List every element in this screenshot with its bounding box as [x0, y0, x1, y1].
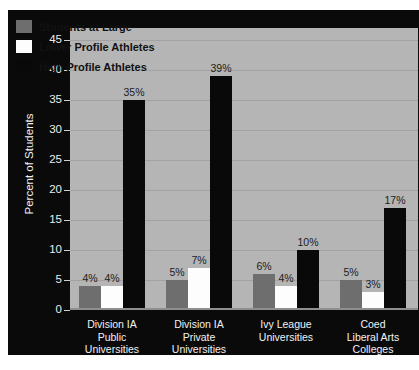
bar	[79, 286, 101, 310]
bar-value-label: 6%	[246, 261, 282, 272]
bar	[123, 100, 145, 310]
y-axis-tick-label: 30	[34, 124, 62, 135]
y-axis-tick-label: 0	[34, 304, 62, 315]
x-axis-category-line: Colleges	[318, 343, 419, 356]
legend-label: Lower Profile Athletes	[39, 41, 155, 53]
bar-value-label: 5%	[333, 267, 369, 278]
y-axis-tick-label: 25	[34, 154, 62, 165]
bar	[275, 286, 297, 310]
y-axis-tick-label: 15	[34, 214, 62, 225]
legend-label: Students at Large	[39, 21, 132, 33]
legend-swatch	[16, 60, 32, 73]
bar-value-label: 17%	[377, 195, 413, 206]
legend-swatch	[16, 20, 32, 33]
legend-item: Students at Large	[16, 18, 155, 35]
bar	[166, 280, 188, 310]
axis-baseline	[70, 308, 418, 310]
y-axis-tick	[64, 310, 70, 311]
legend-item: High Profile Athletes	[16, 58, 155, 75]
bar	[297, 250, 319, 310]
bar	[101, 286, 123, 310]
bar	[188, 268, 210, 310]
x-axis-category-label: CoedLiberal ArtsColleges	[318, 318, 419, 356]
y-axis-tick-label: 20	[34, 184, 62, 195]
bar-chart: Percent of Students 051015202530354045 4…	[0, 0, 419, 370]
bar	[210, 76, 232, 310]
legend-label: High Profile Athletes	[39, 61, 147, 73]
x-axis-category-line: Liberal Arts	[318, 331, 419, 344]
bar-value-label: 35%	[116, 87, 152, 98]
y-axis-tick-label: 10	[34, 244, 62, 255]
legend-swatch	[16, 40, 32, 53]
chart-legend: Students at LargeLower Profile AthletesH…	[16, 18, 155, 78]
y-axis-tick-label: 35	[34, 94, 62, 105]
bar-value-label: 10%	[290, 237, 326, 248]
y-axis-tick-label: 5	[34, 274, 62, 285]
bar	[384, 208, 406, 310]
chart-panel: Percent of Students 051015202530354045 4…	[8, 10, 419, 355]
x-axis-category-line: Universities	[144, 343, 254, 356]
x-axis-category-line: Coed	[318, 318, 419, 331]
legend-item: Lower Profile Athletes	[16, 38, 155, 55]
bar-value-label: 39%	[203, 63, 239, 74]
